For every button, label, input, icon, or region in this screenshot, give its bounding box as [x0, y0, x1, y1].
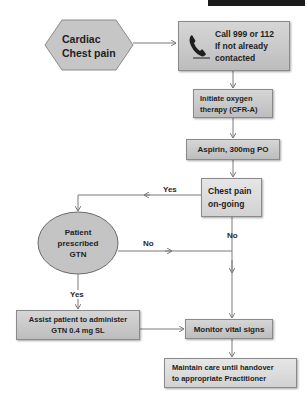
- no-label-chest-pain: No: [227, 231, 238, 240]
- call-line3: contacted: [215, 52, 274, 64]
- gtn-prescribed-node: Patient prescribed GTN: [38, 212, 118, 274]
- gtn-line3: GTN: [70, 249, 87, 260]
- oxygen-line1: Initiate oxygen: [200, 93, 258, 104]
- chest-pain-ongoing-node: Chest pain on-going: [201, 178, 262, 217]
- gtn-line2: prescribed: [58, 238, 99, 249]
- maintain-care-node: Maintain care until handover to appropri…: [164, 358, 297, 388]
- monitor-node: Monitor vital signs: [185, 319, 273, 339]
- aspirin-text: Aspirin, 300mg PO: [197, 144, 268, 155]
- chest-pain-line2: on-going: [208, 198, 251, 211]
- yes-label-chest-pain: Yes: [163, 185, 177, 194]
- assist-line1: Assist patient to administer: [29, 314, 127, 325]
- oxygen-line2: therapy (CFR-A): [200, 104, 258, 115]
- assist-gtn-node: Assist patient to administer GTN 0.4 mg …: [16, 310, 140, 340]
- no-label-gtn: No: [143, 239, 154, 248]
- yes-label-gtn: Yes: [70, 290, 84, 299]
- maintain-line1: Maintain care until handover: [172, 362, 274, 373]
- assist-line2: GTN 0.4 mg SL: [51, 325, 104, 336]
- aspirin-node: Aspirin, 300mg PO: [186, 139, 280, 160]
- start-line2: Chest pain: [62, 46, 116, 60]
- start-node: Cardiac Chest pain: [45, 20, 133, 71]
- start-line1: Cardiac: [62, 32, 116, 46]
- gtn-line1: Patient: [65, 227, 92, 238]
- call-line2: If not already: [215, 40, 274, 52]
- monitor-text: Monitor vital signs: [194, 324, 265, 335]
- oxygen-node: Initiate oxygen therapy (CFR-A): [193, 89, 273, 118]
- call-emergency-node: Call 999 or 112 If not already contacted: [178, 21, 290, 71]
- chest-pain-line1: Chest pain: [208, 185, 251, 198]
- call-line1: Call 999 or 112: [215, 28, 274, 40]
- phone-icon: [187, 32, 211, 60]
- maintain-line2: to appropriate Practitioner: [172, 373, 274, 384]
